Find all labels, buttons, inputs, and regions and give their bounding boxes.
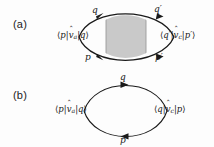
left-matrix-element-b: ⟨p|ˆva|q⟩ (55, 105, 87, 114)
momentum-label-bottom-b: p (120, 136, 126, 145)
arrowhead-upper-right-a (156, 13, 164, 19)
shaded-interaction-block (106, 0, 146, 73)
right-matrix-element-a: ⟨q′|ˆvc|p′⟩ (160, 31, 195, 40)
momentum-label-top-b: q (120, 73, 126, 82)
arrowhead-upper-b (121, 82, 129, 88)
momentum-label-top-left-a: q (92, 6, 98, 15)
momentum-label-bottom-right-a: p′ (155, 53, 163, 62)
left-matrix-element-a: ⟨p|ˆva|q⟩ (57, 31, 89, 40)
lower-propagator-line-b (84, 111, 167, 137)
figure-root: (a) (0, 0, 214, 147)
momentum-label-bottom-left-a: p (85, 53, 91, 62)
right-matrix-element-b: ⟨q|ˆvc|p⟩ (154, 105, 186, 114)
panel-a: (a) (0, 0, 214, 73)
momentum-label-top-right-a: q′ (154, 5, 162, 14)
panel-b: (b) ⟨p|ˆva|q⟩ ⟨q|ˆvc|p⟩ q p (0, 73, 214, 147)
